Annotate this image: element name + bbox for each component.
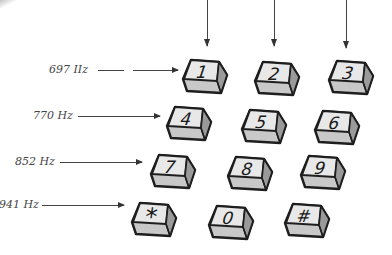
key-2[interactable]: 2 (253, 59, 303, 101)
key-label: * (133, 207, 170, 227)
key-7[interactable]: 7 (149, 152, 199, 194)
key-8[interactable]: 8 (226, 154, 276, 196)
key-label: 7 (152, 157, 189, 177)
key-label: # (286, 206, 323, 226)
key-label: 3 (330, 63, 367, 83)
key-label: 4 (168, 109, 205, 129)
key-star[interactable]: * (130, 200, 180, 242)
row-frequency-label-852: 852 Hz (15, 156, 55, 168)
key-label: 5 (243, 112, 280, 132)
row-arrow-852 (60, 162, 142, 163)
row-arrow-697 (98, 70, 178, 71)
key-1[interactable]: 1 (181, 57, 231, 99)
row-frequency-label-941: 941 Hz (0, 199, 39, 211)
handset-edge (0, 0, 171, 32)
column-arrow-2 (274, 0, 275, 46)
key-label: 9 (302, 158, 339, 178)
key-6[interactable]: 6 (313, 108, 363, 150)
key-label: 0 (210, 208, 247, 228)
key-label: 2 (256, 64, 293, 84)
key-hash[interactable]: # (283, 201, 333, 243)
row-frequency-label-770: 770 Hz (33, 110, 73, 122)
key-5[interactable]: 5 (240, 107, 290, 149)
key-9[interactable]: 9 (299, 153, 349, 195)
column-arrow-1 (207, 0, 208, 46)
row-arrow-941 (42, 205, 124, 206)
key-3[interactable]: 3 (327, 58, 377, 100)
key-4[interactable]: 4 (165, 104, 215, 146)
key-0[interactable]: 0 (207, 203, 257, 245)
key-label: 1 (184, 62, 221, 82)
row-arrow-770 (78, 116, 160, 117)
key-label: 6 (316, 113, 353, 133)
key-label: 8 (229, 159, 266, 179)
column-arrow-3 (346, 0, 347, 48)
row-frequency-label-697: 697 IIz (49, 64, 88, 76)
